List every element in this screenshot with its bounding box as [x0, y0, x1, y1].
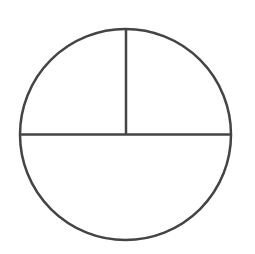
diagram-svg [0, 0, 255, 254]
fraction-circle-diagram [0, 0, 255, 254]
